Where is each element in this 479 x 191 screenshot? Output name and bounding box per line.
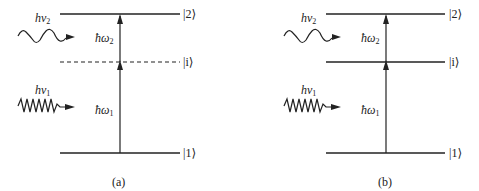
energy-level-diagram — [0, 0, 479, 191]
photon-arrow-2-b — [332, 34, 341, 40]
photon-label-1-b: hν1 — [301, 84, 316, 100]
caption-b: (b) — [378, 176, 392, 188]
photon-wave-2-a — [18, 29, 66, 42]
photon-label-1-a: hν1 — [35, 84, 50, 100]
level-2-label-a: |2⟩ — [183, 8, 196, 20]
caption-a: (a) — [112, 176, 125, 188]
photon-arrow-2-a — [66, 34, 75, 40]
photon-label-2-b: hν2 — [301, 12, 316, 28]
arrowhead-2-b — [383, 14, 389, 24]
arrowhead-2-a — [117, 14, 123, 24]
transition-label-2-a: ħω2 — [95, 32, 113, 48]
transition-label-1-a: ħω1 — [95, 104, 113, 120]
transition-label-1-b: ħω1 — [361, 104, 379, 120]
photon-wave-1-a — [18, 99, 65, 112]
level-i-label-b: |i⟩ — [449, 56, 459, 68]
photon-arrow-1-b — [331, 104, 341, 110]
photon-arrow-1-a — [65, 104, 75, 110]
photon-wave-1-b — [284, 99, 331, 112]
level-1-label-b: |1⟩ — [449, 147, 462, 159]
level-i-label-a: |i⟩ — [183, 56, 193, 68]
level-1-label-a: |1⟩ — [183, 147, 196, 159]
photon-label-2-a: hν2 — [35, 12, 50, 28]
transition-label-2-b: ħω2 — [361, 32, 379, 48]
photon-wave-2-b — [284, 29, 332, 42]
level-2-label-b: |2⟩ — [449, 8, 462, 20]
